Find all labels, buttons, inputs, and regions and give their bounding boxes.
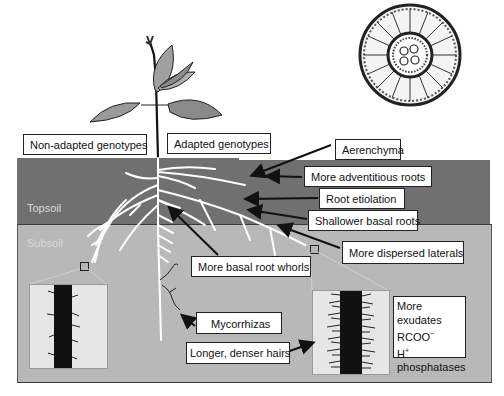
root-etiolation-label: Root etiolation bbox=[319, 188, 405, 209]
aerenchyma-label: Aerenchyma bbox=[335, 139, 401, 160]
exudates-line-2: RCOO− bbox=[397, 327, 462, 344]
adapted-genotypes-label: Adapted genotypes bbox=[167, 133, 271, 154]
dispersed-laterals-label: More dispersed laterals bbox=[342, 241, 464, 264]
basal-root-whorls-label: More basal root whorls bbox=[191, 256, 311, 277]
root-cross-section-icon bbox=[360, 5, 460, 105]
exudates-line-4: phosphatases bbox=[397, 360, 462, 374]
shallower-basal-roots-label: Shallower basal roots bbox=[308, 210, 418, 231]
exudates-label: More exudates RCOO− H+ phosphatases bbox=[393, 296, 466, 358]
non-adapted-genotypes-label: Non-adapted genotypes bbox=[23, 134, 147, 155]
mycorrhiza-hyphae-icon bbox=[160, 264, 180, 310]
exudates-line-3: H+ bbox=[397, 344, 462, 361]
longer-denser-hairs-label: Longer, denser hairs bbox=[186, 342, 290, 364]
exudates-line-1: More exudates bbox=[397, 299, 462, 327]
mycorrhizas-label: Mycorrhizas bbox=[196, 312, 282, 334]
adventitious-roots-label: More adventitious roots bbox=[304, 166, 432, 187]
